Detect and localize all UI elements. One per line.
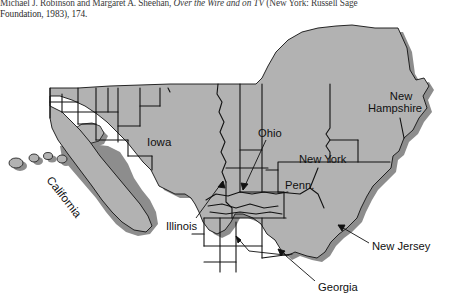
map-label-georgia: Georgia bbox=[318, 281, 358, 293]
map-label-new-hampshire-line1: New bbox=[390, 90, 412, 102]
island-1 bbox=[9, 158, 23, 168]
footnote-line-1-part-a: Michael J. Robinson and Margaret A. Shee… bbox=[0, 0, 174, 8]
footnote-line-1-part-b: (New York: Russell Sage bbox=[264, 0, 357, 8]
cartogram-figure: Iowa California Illinois Ohio New York P… bbox=[0, 22, 465, 281]
footnote-line-1-title: Over the Wire and on TV bbox=[174, 0, 265, 8]
map-label-pennsylvania: Penn. bbox=[285, 179, 314, 191]
footnote-line-2: Foundation, 1983), 174. bbox=[0, 9, 465, 20]
map-landmass-layer bbox=[9, 25, 429, 258]
map-label-illinois: Illinois bbox=[166, 220, 197, 232]
map-label-new-hampshire: New Hampshire bbox=[380, 90, 422, 114]
map-label-new-york: New York bbox=[299, 153, 346, 165]
island-3 bbox=[44, 153, 53, 160]
map-label-new-jersey: New Jersey bbox=[372, 240, 430, 252]
footnote-line-1: Michael J. Robinson and Margaret A. Shee… bbox=[0, 0, 465, 9]
map-label-ohio: Ohio bbox=[258, 127, 282, 139]
map-label-iowa: Iowa bbox=[147, 136, 171, 148]
island-4 bbox=[57, 155, 67, 163]
footnote-citation: Michael J. Robinson and Margaret A. Shee… bbox=[0, 0, 465, 20]
map-label-new-hampshire-line2: Hampshire bbox=[368, 102, 422, 114]
island-2 bbox=[29, 154, 39, 162]
